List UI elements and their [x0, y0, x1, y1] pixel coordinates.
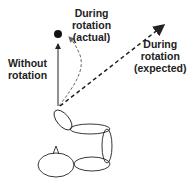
shoulder-ellipse [74, 157, 110, 171]
hand-ellipse [51, 107, 76, 133]
arrow-actual-path [59, 37, 81, 106]
label-expected-l3: (expected) [134, 62, 187, 74]
label-expected-l1: During [134, 38, 187, 50]
label-expected-l2: rotation [134, 50, 187, 62]
arm-figure [38, 107, 112, 177]
label-actual-l3: (actual) [72, 31, 111, 43]
upper-arm-ellipse [102, 129, 112, 163]
target-dot [54, 30, 62, 38]
label-actual-l1: During [72, 7, 111, 19]
label-without: Without rotation [8, 57, 47, 81]
label-without-l2: rotation [8, 69, 47, 81]
label-actual-l2: rotation [72, 19, 111, 31]
label-without-l1: Without [8, 57, 47, 69]
label-expected: During rotation (expected) [134, 38, 187, 74]
label-actual: During rotation (actual) [72, 7, 111, 43]
head-ellipse [38, 153, 74, 177]
